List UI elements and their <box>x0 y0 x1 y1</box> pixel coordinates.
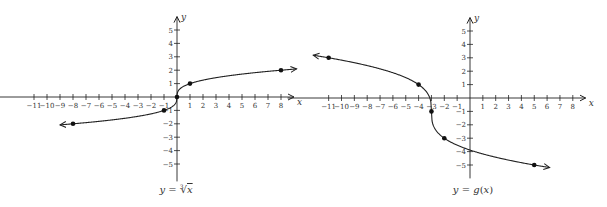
x-tick-label: 2 <box>201 102 205 110</box>
y-tick-label: −2 <box>163 120 173 128</box>
y-tick-label: 3 <box>462 54 466 62</box>
data-point <box>279 68 284 73</box>
y-tick-label: 3 <box>169 53 173 61</box>
data-point <box>162 108 167 113</box>
x-tick-label: −6 <box>94 102 105 110</box>
y-tick-label: 1 <box>462 81 466 89</box>
x-tick-label: −5 <box>107 102 117 110</box>
y-tick-label: −5 <box>163 161 173 169</box>
g-of-x-plot: xy−11−10−9−8−7−6−5−4−3−2−112345678−5−4−3… <box>288 13 594 195</box>
y-tick-label: −3 <box>456 135 466 143</box>
x-tick-label: 1 <box>188 102 192 110</box>
x-tick-label: −5 <box>401 103 411 111</box>
y-tick-label: 4 <box>462 41 467 49</box>
data-point <box>442 136 447 141</box>
y-tick-label: −2 <box>456 121 466 129</box>
y-tick-label: −4 <box>163 147 174 155</box>
x-tick-label: 4 <box>227 102 232 110</box>
y-tick-label: −1 <box>456 108 466 116</box>
data-point <box>71 122 76 127</box>
data-point <box>188 81 193 86</box>
x-tick-label: 3 <box>214 102 218 110</box>
y-tick-label: −3 <box>163 134 173 142</box>
data-point <box>429 109 434 114</box>
x-tick-label: 3 <box>506 103 510 111</box>
y-axis-label: y <box>473 13 480 23</box>
data-point <box>326 56 331 61</box>
x-tick-label: −9 <box>55 102 65 110</box>
y-tick-label: 2 <box>169 67 173 75</box>
data-point <box>416 82 421 87</box>
x-tick-label: 2 <box>493 103 497 111</box>
y-tick-label: −4 <box>456 148 467 156</box>
x-tick-label: 7 <box>266 102 270 110</box>
x-tick-label: 7 <box>558 103 562 111</box>
y-tick-label: 1 <box>169 80 173 88</box>
data-point <box>532 163 537 168</box>
x-tick-label: −10 <box>40 102 55 110</box>
x-tick-label: −8 <box>362 103 372 111</box>
x-tick-label: −7 <box>375 103 385 111</box>
x-tick-label: −10 <box>334 103 349 111</box>
x-tick-label: 8 <box>571 103 575 111</box>
x-tick-label: 6 <box>253 102 258 110</box>
x-tick-label: 8 <box>279 102 283 110</box>
x-tick-label: −4 <box>120 102 131 110</box>
x-tick-label: −3 <box>133 102 143 110</box>
y-tick-label: 2 <box>462 68 466 76</box>
function-caption: y = g(x) <box>452 184 493 195</box>
x-axis-label: x <box>589 98 594 108</box>
x-tick-label: 1 <box>481 103 485 111</box>
data-point <box>175 95 180 100</box>
x-tick-label: −8 <box>68 102 78 110</box>
cube-root-plot: xy−11−10−9−8−7−6−5−4−3−2−112345678−5−4−3… <box>0 12 302 195</box>
x-tick-label: −2 <box>439 103 449 111</box>
x-tick-label: −7 <box>81 102 91 110</box>
x-tick-label: −4 <box>413 103 424 111</box>
y-axis-label: y <box>180 12 187 22</box>
x-tick-label: 4 <box>519 103 524 111</box>
y-tick-label: −5 <box>456 162 466 170</box>
y-tick-label: 4 <box>169 40 174 48</box>
x-tick-label: −2 <box>146 102 156 110</box>
x-tick-label: 5 <box>532 103 536 111</box>
x-tick-label: 6 <box>545 103 550 111</box>
x-tick-label: −6 <box>388 103 399 111</box>
x-tick-label: −9 <box>349 103 359 111</box>
x-axis-label: x <box>297 97 302 107</box>
y-tick-label: 5 <box>169 27 173 35</box>
function-caption: y = 3√x <box>158 183 193 195</box>
y-tick-label: 5 <box>462 28 466 36</box>
figure-canvas: xy−11−10−9−8−7−6−5−4−3−2−112345678−5−4−3… <box>0 0 607 207</box>
x-tick-label: 5 <box>240 102 244 110</box>
